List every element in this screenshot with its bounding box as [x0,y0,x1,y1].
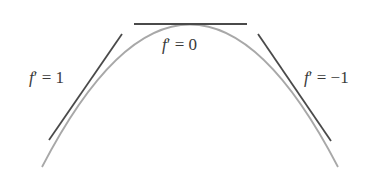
label-slope-minus-1-value: ′ = −1 [309,68,349,87]
label-slope-0-value: ′ = 0 [167,35,197,54]
label-slope-1-value: ′ = 1 [34,68,64,87]
label-slope-1: f′ = 1 [29,69,64,86]
label-slope-0: f′ = 0 [162,36,197,53]
tangent-line-slope-1 [49,34,122,140]
label-slope-minus-1: f′ = −1 [304,69,349,86]
tangent-line-slope-minus-1 [258,34,331,141]
